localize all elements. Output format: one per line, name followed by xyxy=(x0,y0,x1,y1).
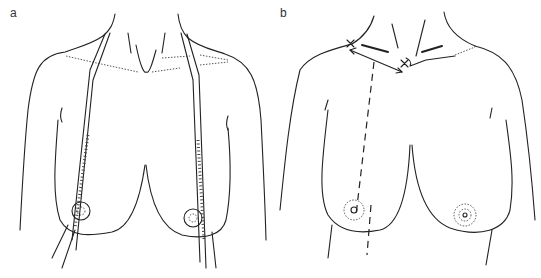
torso-drawing-with-markings xyxy=(270,0,541,278)
torso-drawing-with-tapes xyxy=(0,0,270,278)
panel-b: b xyxy=(270,0,540,278)
panel-a: a xyxy=(0,0,270,278)
